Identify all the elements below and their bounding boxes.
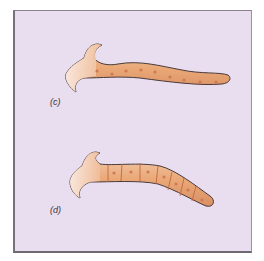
panel-label-d: (d) (50, 205, 61, 215)
panel-label-c: (c) (50, 97, 61, 107)
figure-illustration (0, 0, 264, 261)
worm-d (70, 152, 213, 206)
worm-c (66, 44, 230, 92)
